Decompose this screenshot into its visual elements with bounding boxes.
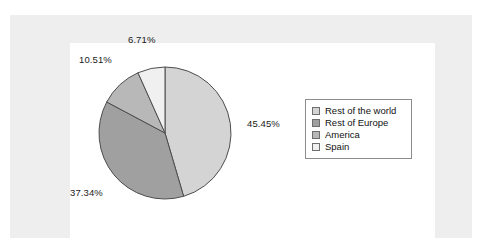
legend-label-rest-of-the-world: Rest of the world xyxy=(325,105,396,117)
pie-slice-group xyxy=(99,67,231,199)
legend-label-america: America xyxy=(325,129,360,141)
pie-chart xyxy=(95,63,235,203)
legend-item-spain[interactable]: Spain xyxy=(312,141,405,153)
legend-label-rest-of-europe: Rest of Europe xyxy=(325,117,388,129)
legend-item-rest-of-the-world[interactable]: Rest of the world xyxy=(312,105,405,117)
data-label-rest-of-europe: 37.34% xyxy=(70,187,103,198)
data-label-spain: 6.71% xyxy=(128,34,155,45)
legend-item-america[interactable]: America xyxy=(312,129,405,141)
data-label-america: 10.51% xyxy=(79,54,112,65)
legend-item-rest-of-europe[interactable]: Rest of Europe xyxy=(312,117,405,129)
legend-swatch-icon-spain xyxy=(312,143,320,151)
data-label-rest-of-the-world: 45.45% xyxy=(247,118,280,129)
legend-swatch-icon-america xyxy=(312,131,320,139)
legend-box: Rest of the world Rest of Europe America… xyxy=(305,99,412,159)
legend-label-spain: Spain xyxy=(325,141,349,153)
caption-remnant xyxy=(14,239,244,251)
legend-swatch-icon-rest-of-the-world xyxy=(312,107,320,115)
legend-swatch-icon-rest-of-europe xyxy=(312,119,320,127)
